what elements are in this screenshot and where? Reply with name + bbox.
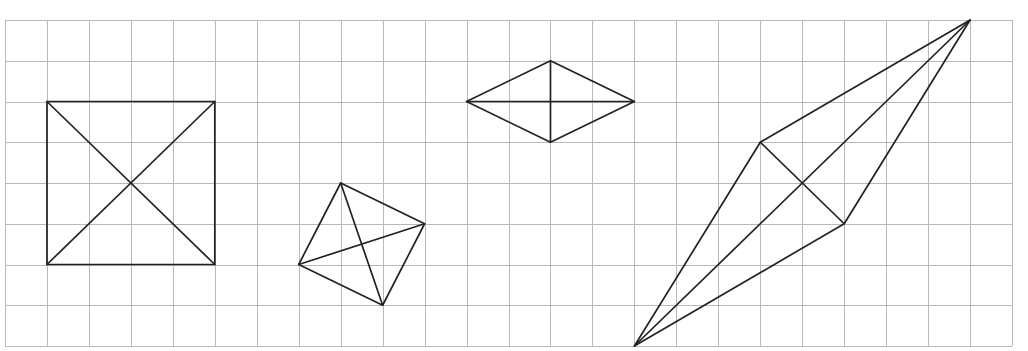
rhombus-with-diagonals [467, 61, 635, 143]
grid-diagram [0, 0, 1028, 351]
shape-diagonal [299, 224, 425, 265]
tilted-square-with-diagonals [299, 183, 425, 305]
grid-lines [5, 20, 1013, 347]
